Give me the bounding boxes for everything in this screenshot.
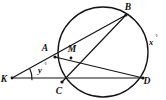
angle-label-x: x ° [148, 34, 158, 47]
vertex-dot-k [11, 77, 14, 80]
vertex-dot-c [60, 80, 63, 83]
angle-label-y-text: y [37, 65, 42, 75]
degree-symbol-x: ° [155, 34, 157, 40]
geometry-figure: A B C D M K x ° y ° [0, 0, 166, 100]
angle-label-x-text: x [148, 37, 154, 47]
point-label-a: A [41, 43, 48, 53]
degree-symbol-y: ° [44, 62, 46, 68]
geometry-diagram-container: A B C D M K x ° y ° [0, 0, 166, 100]
point-label-m: M [67, 44, 77, 54]
point-label-k: K [0, 74, 8, 84]
vertex-dot-m [70, 57, 73, 60]
point-label-d: D [143, 76, 151, 86]
point-label-c: C [56, 86, 63, 96]
vertex-dot-a [53, 55, 56, 58]
vertex-dot-b [124, 13, 127, 16]
point-label-b: B [124, 2, 131, 12]
